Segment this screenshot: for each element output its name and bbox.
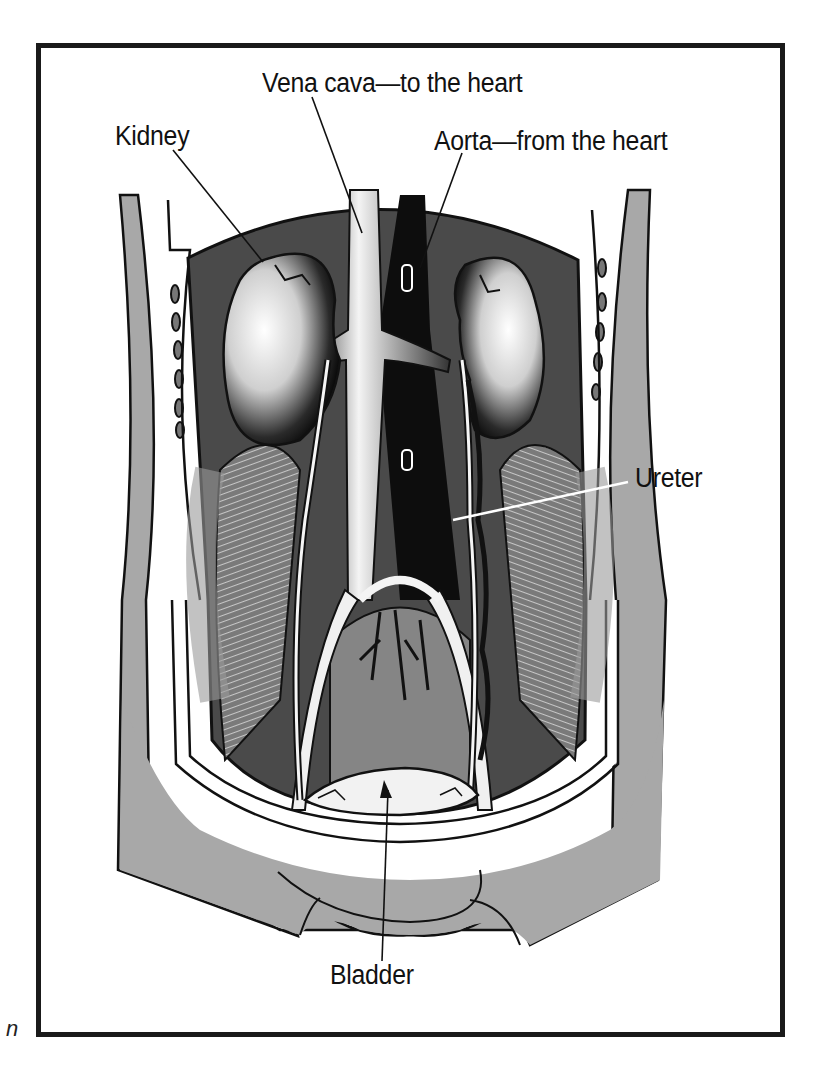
label-vena-cava: Vena cava—to the heart — [262, 70, 522, 97]
urinary-system-illustration — [0, 0, 814, 1068]
label-bladder: Bladder — [330, 962, 414, 989]
label-kidney: Kidney — [115, 123, 189, 150]
label-aorta: Aorta—from the heart — [434, 128, 667, 155]
stray-mark: n — [6, 1016, 18, 1042]
label-ureter: Ureter — [635, 465, 702, 492]
